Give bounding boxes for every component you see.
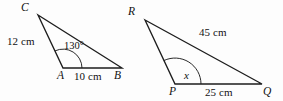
vertex-label-r: R bbox=[128, 6, 135, 18]
figure-canvas bbox=[0, 0, 283, 101]
vertex-label-b: B bbox=[114, 70, 121, 82]
angle-label-p: x bbox=[184, 70, 189, 81]
vertex-label-p: P bbox=[169, 86, 176, 98]
side-length-label-pq: 25 cm bbox=[205, 87, 233, 98]
geometry-figure: C A B 12 cm 10 cm 130° R P Q 45 cm 25 cm… bbox=[0, 0, 283, 101]
vertex-label-c: C bbox=[21, 2, 29, 14]
vertex-label-a: A bbox=[57, 70, 64, 82]
angle-label-a: 130° bbox=[64, 41, 84, 52]
vertex-label-q: Q bbox=[263, 86, 271, 98]
side-length-label-ab: 10 cm bbox=[74, 71, 102, 82]
side-length-label-rq: 45 cm bbox=[199, 27, 227, 38]
side-length-label-ca: 12 cm bbox=[7, 36, 35, 47]
